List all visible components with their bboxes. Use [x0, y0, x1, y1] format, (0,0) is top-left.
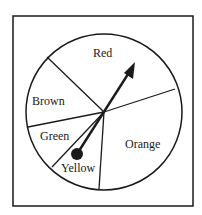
pointer-ball: [71, 148, 83, 160]
sector-label-brown: Brown: [32, 94, 65, 108]
divider-red-orange: [104, 89, 175, 112]
spinner-diagram: Red Brown Green Yellow Orange: [0, 0, 202, 215]
divider-yellow-orange: [99, 112, 104, 189]
sector-label-red: Red: [93, 46, 112, 60]
sector-label-orange: Orange: [125, 137, 160, 151]
sector-label-green: Green: [40, 129, 69, 143]
sector-label-yellow: Yellow: [61, 161, 95, 175]
